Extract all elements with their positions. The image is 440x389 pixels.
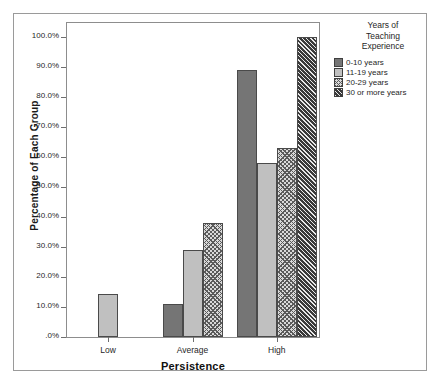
legend-swatch (334, 78, 343, 87)
legend-title: Years ofTeachingExperience (334, 20, 432, 52)
legend-label: 11-19 years (346, 68, 388, 77)
legend-swatch (334, 88, 343, 97)
x-axis-tick-label: Average (153, 345, 233, 355)
y-axis-tick-label: 80.0% (36, 91, 59, 100)
bar (297, 37, 317, 337)
y-axis-tick-label: 100.0% (32, 31, 59, 40)
legend: Years ofTeachingExperience 0-10 years11-… (334, 20, 432, 98)
y-axis-tick-label: 30.0% (36, 241, 59, 250)
bar (98, 294, 118, 337)
legend-label: 0-10 years (346, 58, 384, 67)
legend-entry: 0-10 years (334, 58, 432, 67)
y-axis-ticks: 100.0%90.0%80.0%70.0%60.0%50.0%40.0%30.0… (0, 37, 66, 337)
legend-entry: 20-29 years (334, 78, 432, 87)
x-axis-tick-mark (193, 337, 194, 342)
x-axis-tick-label: High (237, 345, 317, 355)
x-axis-tick-label: Low (68, 345, 148, 355)
bar (257, 163, 277, 337)
y-axis-tick-label: .0% (45, 331, 59, 340)
y-axis-tick: 10.0% (0, 307, 66, 308)
legend-swatch (334, 58, 343, 67)
legend-label: 30 or more years (346, 88, 406, 97)
y-axis-tick-label: 70.0% (36, 121, 59, 130)
legend-swatch (334, 68, 343, 77)
y-axis-tick: 30.0% (0, 247, 66, 248)
legend-label: 20-29 years (346, 78, 388, 87)
y-axis-tick-label: 60.0% (36, 151, 59, 160)
y-axis-tick: .0% (0, 337, 66, 338)
bars-container (66, 37, 319, 337)
bar (163, 304, 183, 337)
bar (183, 250, 203, 337)
y-axis-tick-label: 10.0% (36, 301, 59, 310)
x-axis-tick-mark (108, 337, 109, 342)
y-axis-tick-label: 20.0% (36, 271, 59, 280)
y-axis-tick: 80.0% (0, 97, 66, 98)
chart-figure: Percentage of Each Group 100.0%90.0%80.0… (0, 0, 440, 389)
legend-entry: 30 or more years (334, 88, 432, 97)
y-axis-tick-label: 50.0% (36, 181, 59, 190)
x-axis-tick-mark (277, 337, 278, 342)
legend-entry: 11-19 years (334, 68, 432, 77)
bar (277, 148, 297, 337)
y-axis-tick: 40.0% (0, 217, 66, 218)
bar (237, 70, 257, 337)
y-axis-tick: 50.0% (0, 187, 66, 188)
legend-entries: 0-10 years11-19 years20-29 years30 or mo… (334, 58, 432, 97)
y-axis-tick: 90.0% (0, 67, 66, 68)
y-axis-tick: 20.0% (0, 277, 66, 278)
x-axis-title: Persistence (66, 360, 320, 372)
y-axis-tick: 70.0% (0, 127, 66, 128)
y-axis-tick-label: 90.0% (36, 61, 59, 70)
y-axis-tick-label: 40.0% (36, 211, 59, 220)
y-axis-tick: 60.0% (0, 157, 66, 158)
bar (203, 223, 223, 337)
y-axis-tick: 100.0% (0, 37, 66, 38)
